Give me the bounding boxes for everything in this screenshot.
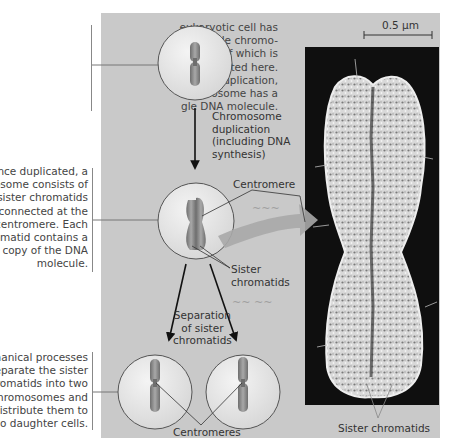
duplication-label: Chromosome duplication (including DNA sy… [212,110,290,160]
photo-sister-chromatids-label: Sister chromatids [338,422,430,435]
handwritten-annotation-1: ~~~ [252,202,280,215]
cell-unduplicated [158,26,232,100]
sister-chromatids-label: Sister chromatids [231,263,290,288]
daughter-cell-right [206,355,280,429]
centromere-label: Centromere [233,178,295,191]
handwritten-annotation-2: ~~ ~~ [232,296,272,309]
centromeres-label: Centromeres [173,426,241,439]
diagram-drawing: ~~~ ~~ ~~ [0,0,450,445]
photo-sister-chromatids-leader [367,385,392,418]
separation-label: Separation of sister chromatids [173,309,232,347]
scale-bar-label: 0.5 µm [382,19,419,32]
cell-duplicated [158,183,234,259]
daughter-cell-left [118,355,192,429]
